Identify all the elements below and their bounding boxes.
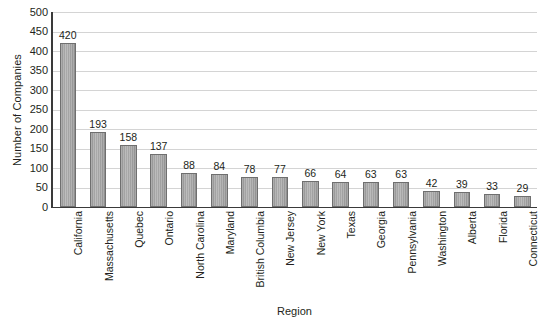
- bar-connecticut[interactable]: 29: [514, 12, 531, 207]
- bar-value-label: 66: [304, 168, 316, 179]
- bar-california[interactable]: 420: [60, 12, 77, 207]
- bar-value-label: 158: [120, 132, 138, 143]
- y-axis-tick-450: 450: [2, 26, 48, 37]
- x-axis-label-quebec: Quebec: [133, 211, 145, 248]
- bar-ontario[interactable]: 137: [150, 12, 167, 207]
- x-axis-title: Region: [52, 305, 537, 318]
- bar-rect: [60, 43, 77, 207]
- bar-value-label: 137: [150, 141, 168, 152]
- bar-rect: [393, 182, 410, 207]
- bar-new-jersey[interactable]: 77: [272, 12, 289, 207]
- bar-british-columbia[interactable]: 78: [241, 12, 258, 207]
- bar-florida[interactable]: 33: [484, 12, 501, 207]
- bar-quebec[interactable]: 158: [120, 12, 137, 207]
- bar-rect: [363, 182, 380, 207]
- bar-value-label: 42: [426, 178, 438, 189]
- bar-value-label: 64: [335, 169, 347, 180]
- bar-value-label: 78: [244, 164, 256, 175]
- x-axis-label-florida: Florida: [497, 211, 509, 243]
- bar-rect: [90, 132, 107, 207]
- x-axis-label-connecticut: Connecticut: [527, 211, 539, 266]
- bar-alberta[interactable]: 39: [454, 12, 471, 207]
- y-axis-tick-150: 150: [2, 143, 48, 154]
- x-axis-label-massachusetts: Massachusetts: [103, 211, 115, 281]
- x-axis-label-new-jersey: New Jersey: [284, 211, 296, 266]
- y-axis-tick-250: 250: [2, 104, 48, 115]
- bar-value-label: 63: [395, 169, 407, 180]
- bar-north-carolina[interactable]: 88: [181, 12, 198, 207]
- x-axis-label-british-columbia: British Columbia: [254, 211, 266, 287]
- bar-rect: [272, 177, 289, 207]
- bar-washington[interactable]: 42: [423, 12, 440, 207]
- bar-maryland[interactable]: 84: [211, 12, 228, 207]
- x-axis-label-georgia: Georgia: [375, 211, 387, 248]
- y-axis-tick-0: 0: [2, 202, 48, 213]
- bar-pennsylvania[interactable]: 63: [393, 12, 410, 207]
- bar-value-label: 193: [89, 119, 107, 130]
- y-axis-tick-350: 350: [2, 65, 48, 76]
- bar-rect: [211, 174, 228, 207]
- bar-rect: [514, 196, 531, 207]
- x-axis-label-pennsylvania: Pennsylvania: [406, 211, 418, 273]
- bars-layer: 420193158137888478776664636342393329: [52, 12, 537, 207]
- x-axis-label-maryland: Maryland: [224, 211, 236, 254]
- bar-chart: Number of Companies 50045040035030025020…: [0, 0, 549, 328]
- x-axis-category-labels: CaliforniaMassachusettsQuebecOntarioNort…: [52, 211, 537, 301]
- x-axis-label-north-carolina: North Carolina: [194, 211, 206, 279]
- bar-new-york[interactable]: 66: [302, 12, 319, 207]
- y-axis-tick-500: 500: [2, 7, 48, 18]
- bar-rect: [302, 181, 319, 207]
- bar-massachusetts[interactable]: 193: [90, 12, 107, 207]
- bar-rect: [423, 191, 440, 207]
- y-axis-tick-400: 400: [2, 46, 48, 57]
- bar-value-label: 29: [517, 183, 529, 194]
- x-axis-label-ontario: Ontario: [163, 211, 175, 245]
- bar-rect: [150, 154, 167, 207]
- y-axis-tick-200: 200: [2, 124, 48, 135]
- x-axis-label-california: California: [72, 211, 84, 255]
- bar-georgia[interactable]: 63: [363, 12, 380, 207]
- bar-rect: [332, 182, 349, 207]
- bar-value-label: 33: [486, 181, 498, 192]
- bar-value-label: 420: [59, 30, 77, 41]
- bar-value-label: 77: [274, 164, 286, 175]
- bar-rect: [181, 173, 198, 207]
- bar-texas[interactable]: 64: [332, 12, 349, 207]
- y-axis-tick-50: 50: [2, 182, 48, 193]
- bar-rect: [241, 177, 258, 207]
- x-axis-label-alberta: Alberta: [466, 211, 478, 244]
- bar-value-label: 88: [183, 160, 195, 171]
- bar-rect: [120, 145, 137, 207]
- y-axis-tick-100: 100: [2, 163, 48, 174]
- bar-value-label: 39: [456, 179, 468, 190]
- y-axis-tick-300: 300: [2, 85, 48, 96]
- bar-value-label: 84: [213, 161, 225, 172]
- x-axis-label-washington: Washington: [436, 211, 448, 266]
- y-axis-tick-labels: 500450400350300250200150100500: [0, 0, 48, 328]
- bar-value-label: 63: [365, 169, 377, 180]
- x-axis-label-new-york: New York: [315, 211, 327, 255]
- bar-rect: [484, 194, 501, 207]
- bar-rect: [454, 192, 471, 207]
- x-axis-label-texas: Texas: [345, 211, 357, 238]
